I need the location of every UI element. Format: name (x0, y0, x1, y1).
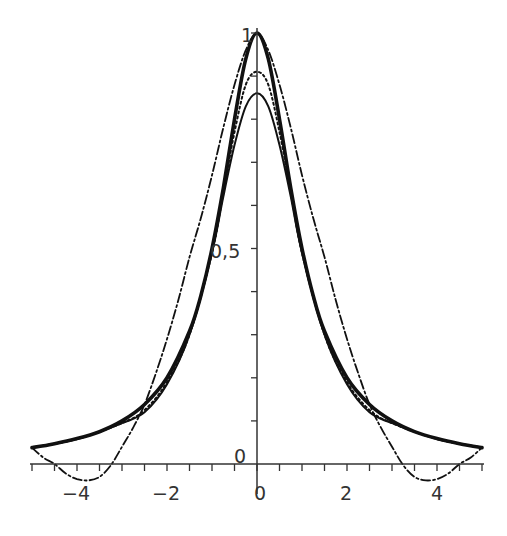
y-tick-label: 1 (241, 24, 253, 46)
x-tick-label: 0 (254, 482, 266, 504)
y-tick-label: 0 (234, 445, 246, 467)
x-tick-label: 4 (431, 482, 443, 504)
y-tick-label: 0,5 (210, 240, 240, 262)
plot-area: −4 −2 0 2 4 0 0,5 1 (0, 0, 507, 536)
axes-group (30, 28, 484, 494)
x-tick-label: −4 (62, 482, 90, 504)
x-ticks (32, 464, 482, 471)
x-tick-label: −2 (152, 482, 180, 504)
y-ticks (251, 33, 257, 421)
x-tick-label: 2 (340, 482, 352, 504)
